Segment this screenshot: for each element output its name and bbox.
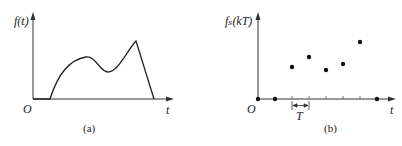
y-axis-arrow-icon	[31, 12, 36, 20]
sample-points	[256, 40, 379, 101]
x-axis-label: t	[390, 104, 393, 116]
x-axis-arrow-icon	[388, 97, 396, 102]
panel-sampled-signal: fₛ(kT) O t T (b)	[200, 0, 402, 146]
y-axis-label: f(t)	[14, 15, 29, 27]
x-axis-label: t	[166, 104, 169, 116]
caption: (a)	[83, 123, 95, 134]
x-axis-arrow-icon	[166, 97, 174, 102]
period-label: T	[296, 110, 303, 122]
origin-label: O	[247, 103, 256, 115]
caption: (b)	[324, 123, 337, 134]
signal-curve	[33, 41, 154, 99]
continuous-signal-plot	[0, 0, 200, 146]
panel-continuous-signal: f(t) O t (a)	[0, 0, 200, 146]
y-axis-arrow-icon	[256, 12, 261, 20]
origin-label: O	[23, 103, 32, 115]
y-axis-label: fₛ(kT)	[225, 15, 252, 27]
